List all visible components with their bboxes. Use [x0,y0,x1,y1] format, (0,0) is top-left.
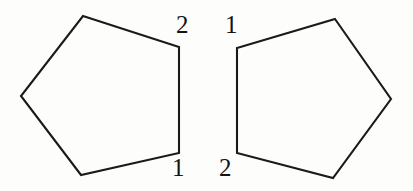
right-pentagon-label-1: 1 [225,12,238,37]
left-pentagon-label-1: 1 [172,155,185,180]
right-pentagon-label-2: 2 [219,155,232,180]
right-pentagon-shape [237,19,391,178]
figure-canvas: 2 1 1 2 [0,0,413,191]
left-pentagon-shape [21,16,179,175]
pentagon-diagram-svg [0,0,413,191]
left-pentagon-label-2: 2 [176,12,189,37]
